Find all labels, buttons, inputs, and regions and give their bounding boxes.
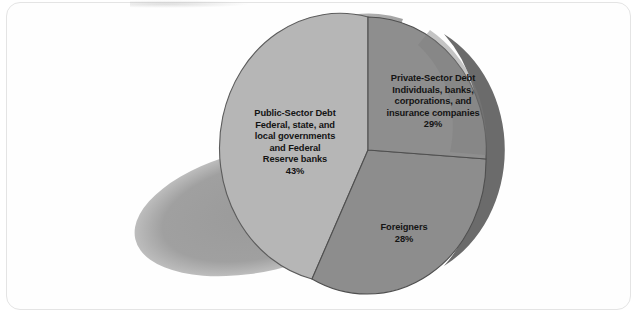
pie-label-private-sector: Private-Sector Debt Individuals, banks, … [366, 73, 500, 131]
pie-label-line: corporations, and [395, 96, 472, 106]
pie-chart: Public-Sector Debt Federal, state, and l… [0, 0, 639, 318]
pie-label-line: and Federal [269, 143, 320, 153]
pie-label-line: Reserve banks [263, 154, 327, 164]
pie-label-percent: 29% [366, 119, 500, 131]
pie-label-line: local governments [255, 131, 335, 141]
pie-label-foreigners: Foreigners 28% [352, 222, 456, 245]
pie-label-line: Private-Sector Debt [391, 73, 475, 83]
pie-label-line: Federal, state, and [255, 120, 335, 130]
pie-label-line: Public-Sector Debt [254, 108, 335, 118]
pie-label-percent: 43% [228, 166, 362, 178]
pie-label-line: Foreigners [380, 222, 427, 232]
pie-label-percent: 28% [352, 234, 456, 246]
pie-label-line: Individuals, banks, [392, 85, 473, 95]
pie-label-public-sector: Public-Sector Debt Federal, state, and l… [228, 108, 362, 178]
pie-label-line: insurance companies [386, 108, 479, 118]
